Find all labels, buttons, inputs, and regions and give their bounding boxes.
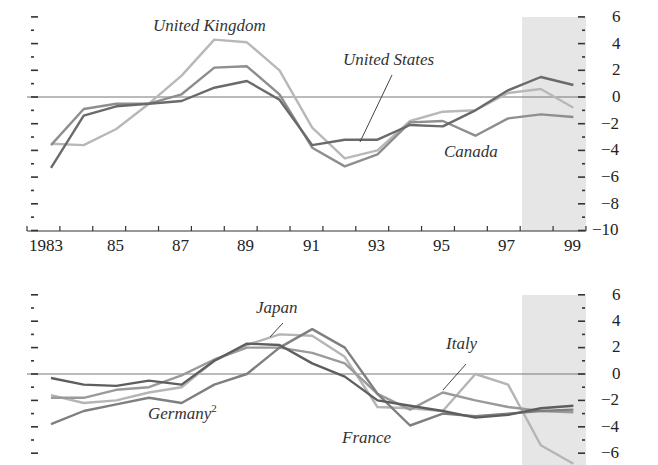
- y-tick-4: 4: [612, 311, 621, 331]
- label-germany-text: Germany: [148, 404, 211, 423]
- y-tick-0: 0: [612, 364, 621, 384]
- forecast-shaded-region: [522, 295, 586, 465]
- top-chart-panel: United Kingdom United States Canada 1983…: [0, 0, 658, 260]
- x-tick-95: 95: [433, 236, 450, 256]
- y-tick-neg8: −8: [601, 194, 619, 214]
- x-tick-85: 85: [107, 236, 124, 256]
- y-tick-2: 2: [612, 337, 621, 357]
- label-germany-footnote: 2: [211, 402, 217, 414]
- series-france: [51, 329, 573, 425]
- y-tick-neg6: −6: [601, 443, 619, 463]
- y-tick-2: 2: [612, 60, 621, 80]
- label-france: France: [342, 428, 391, 448]
- x-tick-97: 97: [498, 236, 515, 256]
- label-germany: Germany2: [148, 402, 217, 424]
- label-united-states: United States: [343, 50, 434, 70]
- forecast-shaded-region: [522, 17, 586, 231]
- x-tick-99: 99: [564, 236, 581, 256]
- label-japan: Japan: [256, 298, 298, 318]
- y-tick-neg4: −4: [601, 140, 619, 160]
- y-tick-neg10: −10: [592, 220, 619, 240]
- x-tick-87: 87: [172, 236, 189, 256]
- top-chart-plot: [0, 0, 658, 260]
- x-tick-1983: 1983: [29, 236, 63, 256]
- bottom-chart-panel: Japan Italy Germany2 France 6 4 2 0 −2 −…: [0, 260, 658, 465]
- y-tick-neg4: −4: [601, 417, 619, 437]
- y-tick-neg2: −2: [601, 390, 619, 410]
- y-tick-6: 6: [612, 7, 621, 27]
- y-tick-0: 0: [612, 87, 621, 107]
- x-tick-91: 91: [303, 236, 320, 256]
- y-tick-4: 4: [612, 34, 621, 54]
- bottom-chart-plot: [0, 260, 658, 465]
- label-united-kingdom: United Kingdom: [153, 16, 266, 36]
- y-tick-6: 6: [612, 285, 621, 305]
- label-canada: Canada: [444, 142, 498, 162]
- y-tick-neg6: −6: [601, 167, 619, 187]
- x-tick-93: 93: [368, 236, 385, 256]
- label-italy: Italy: [446, 334, 477, 354]
- y-tick-neg2: −2: [601, 114, 619, 134]
- x-tick-89: 89: [237, 236, 254, 256]
